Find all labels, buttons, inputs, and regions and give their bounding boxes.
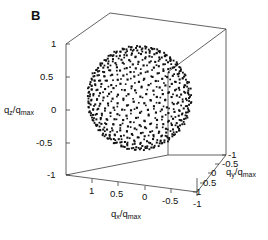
scatter-point xyxy=(120,144,122,146)
scatter-point xyxy=(119,83,121,85)
scatter-point xyxy=(113,51,115,53)
scatter-point xyxy=(162,93,164,95)
scatter-point xyxy=(104,130,106,132)
scatter-point xyxy=(171,124,173,126)
scatter-point xyxy=(181,113,183,115)
scatter-point xyxy=(126,74,128,76)
scatter-point xyxy=(125,83,127,85)
scatter-point xyxy=(114,109,116,111)
scatter-point xyxy=(110,65,112,67)
scatter-point xyxy=(134,149,136,151)
scatter-point xyxy=(109,112,111,114)
scatter-point xyxy=(115,142,117,144)
scatter-point xyxy=(105,134,107,136)
scatter-point xyxy=(129,71,131,73)
scatter-point xyxy=(124,68,126,70)
scatter-point xyxy=(156,119,158,121)
scatter-point xyxy=(122,123,124,125)
scatter-point xyxy=(103,71,105,73)
scatter-point xyxy=(156,124,158,126)
scatter-point xyxy=(88,91,90,93)
scatter-point xyxy=(112,98,114,100)
scatter-point xyxy=(87,95,89,97)
scatter-point xyxy=(92,108,94,110)
scatter-point xyxy=(175,69,177,71)
scatter-point xyxy=(105,123,107,125)
scatter-point xyxy=(88,107,90,109)
scatter-point xyxy=(171,96,173,98)
scatter-point xyxy=(148,61,150,63)
scatter-point xyxy=(140,142,142,144)
scatter-point xyxy=(119,124,121,126)
scatter-point xyxy=(185,112,187,114)
scatter-point xyxy=(117,79,119,81)
scatter-point xyxy=(161,108,163,110)
scatter-point xyxy=(126,104,128,106)
scatter-point xyxy=(139,124,141,126)
scatter-point xyxy=(187,111,189,113)
scatter-point xyxy=(123,57,125,59)
scatter-point xyxy=(95,118,97,120)
scatter-point xyxy=(166,135,168,137)
z-axis-tick-label-1: 0.5 xyxy=(40,72,53,82)
scatter-point xyxy=(184,84,186,86)
scatter-point xyxy=(102,100,104,102)
scatter-point xyxy=(173,103,175,105)
y-axis-title-denom: q xyxy=(237,166,242,177)
scatter-point xyxy=(156,139,158,141)
scatter-point xyxy=(92,119,94,121)
x-axis-tick-label-0: 1 xyxy=(89,186,94,196)
scatter-point xyxy=(168,120,170,122)
scatter-point xyxy=(190,94,192,96)
scatter-point xyxy=(186,105,188,107)
scatter-point xyxy=(142,132,144,134)
scatter-point xyxy=(171,135,173,137)
scatter-point xyxy=(132,98,134,100)
scatter-point xyxy=(141,51,143,53)
scatter-point xyxy=(99,122,101,124)
scatter-point xyxy=(175,116,177,118)
scatter-point xyxy=(181,123,183,125)
z-axis-tick-label-3: -0.5 xyxy=(36,138,52,148)
scatter-point xyxy=(94,72,96,74)
scatter-point xyxy=(97,108,99,110)
scatter-point xyxy=(97,67,99,69)
scatter-point xyxy=(93,117,95,119)
scatter-point xyxy=(164,55,166,57)
scatter-point xyxy=(160,111,162,113)
scatter-point xyxy=(116,119,118,121)
scatter-point xyxy=(93,93,95,95)
scatter-point xyxy=(92,114,94,116)
scatter-point xyxy=(118,58,120,60)
scatter-point xyxy=(131,88,133,90)
scatter-point xyxy=(177,126,179,128)
scatter-point xyxy=(182,101,184,103)
scatter-point xyxy=(120,51,122,53)
scatter-point xyxy=(163,106,165,108)
scatter-point xyxy=(106,137,108,139)
scatter-point xyxy=(111,127,113,129)
scatter-point xyxy=(96,89,98,91)
scatter-point xyxy=(135,67,137,69)
scatter-point xyxy=(119,141,121,143)
scatter-point xyxy=(143,139,145,141)
scatter-point xyxy=(134,89,136,91)
scatter-point xyxy=(176,122,178,124)
scatter-point xyxy=(158,60,160,62)
scatter-point xyxy=(136,49,138,51)
scatter-point xyxy=(177,102,179,104)
scatter-point xyxy=(133,122,135,124)
scatter-point xyxy=(147,109,149,111)
z-axis-title: qz/qmax xyxy=(4,105,34,115)
scatter-point xyxy=(107,102,109,104)
scatter-point xyxy=(180,105,182,107)
x-axis-tick-label-3: -0.5 xyxy=(162,196,178,206)
scatter-point xyxy=(113,138,115,140)
scatter-point xyxy=(101,115,103,117)
scatter-point xyxy=(122,75,124,77)
scatter-point xyxy=(117,102,119,104)
scatter-point xyxy=(172,93,174,95)
scatter-point xyxy=(90,112,92,114)
scatter-point xyxy=(150,99,152,101)
scatter-point xyxy=(120,59,122,61)
